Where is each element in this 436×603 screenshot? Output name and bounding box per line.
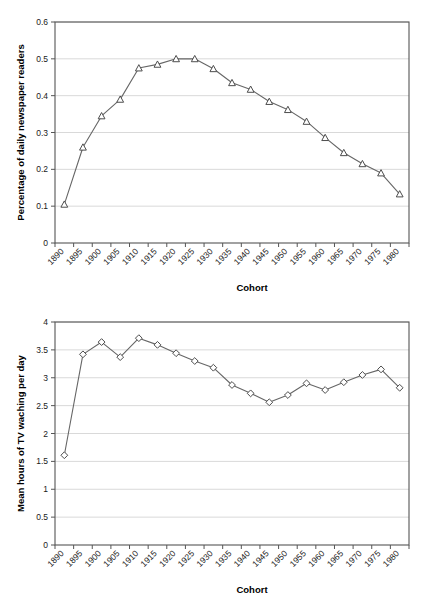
tv-hours-chart: 00.511.522.533.5418901895190019051910191… [0, 300, 436, 603]
y-tick-label-1: 0.1 [36, 201, 48, 211]
x-tick-label-1940: 1940 [232, 548, 253, 569]
data-point-marker [303, 118, 310, 124]
x-tick-label-1920: 1920 [157, 548, 178, 569]
x-axis-group: 1890189519001905191019151920192519301935… [45, 243, 409, 267]
y-tick-label-0: 0 [43, 540, 48, 550]
data-point-marker [284, 392, 291, 399]
y-tick-label-0: 0 [43, 238, 48, 248]
x-tick-label-1970: 1970 [343, 246, 364, 267]
y-axis-group: 00.10.20.30.40.50.6 [36, 17, 55, 248]
x-tick-label-1910: 1910 [120, 548, 141, 569]
x-tick-label-1920: 1920 [157, 246, 178, 267]
figure-page: 00.10.20.30.40.50.6189018951900190519101… [0, 0, 436, 603]
x-tick-label-1935: 1935 [213, 246, 234, 267]
x-tick-label-1950: 1950 [269, 548, 290, 569]
y-tick-label-3: 0.3 [36, 128, 48, 138]
x-tick-label-1905: 1905 [101, 246, 122, 267]
x-tick-label-1945: 1945 [250, 246, 271, 267]
y-tick-label-4: 2 [43, 429, 48, 439]
x-tick-label-1895: 1895 [64, 246, 85, 267]
y-tick-label-2: 0.2 [36, 164, 48, 174]
x-tick-label-1945: 1945 [250, 548, 271, 569]
data-point-marker [80, 351, 87, 358]
y-tick-label-5: 0.5 [36, 54, 48, 64]
data-point-marker [266, 399, 273, 406]
x-axis-title: Cohort [236, 282, 268, 293]
x-tick-label-1970: 1970 [343, 548, 364, 569]
data-point-marker [359, 160, 366, 166]
data-point-marker [284, 106, 291, 112]
data-point-marker [322, 387, 329, 394]
x-tick-label-1915: 1915 [138, 548, 159, 569]
data-point-marker [378, 170, 385, 176]
markers-group [61, 335, 403, 459]
data-point-marker [210, 65, 217, 71]
x-tick-label-1965: 1965 [325, 548, 346, 569]
data-point-marker [191, 358, 198, 365]
data-point-marker [303, 380, 310, 387]
y-axis-title: Percentage of daily newspaper readers [15, 44, 26, 220]
x-tick-label-1980: 1980 [381, 548, 402, 569]
data-point-marker [61, 452, 68, 459]
x-tick-label-1940: 1940 [232, 246, 253, 267]
y-tick-label-7: 3.5 [36, 345, 48, 355]
y-tick-label-4: 0.4 [36, 91, 48, 101]
x-tick-label-1905: 1905 [101, 548, 122, 569]
y-tick-label-8: 4 [43, 317, 48, 327]
x-tick-label-1935: 1935 [213, 548, 234, 569]
x-tick-label-1900: 1900 [83, 548, 104, 569]
x-tick-label-1890: 1890 [45, 246, 66, 267]
data-point-marker [80, 144, 87, 150]
y-axis-group: 00.511.522.533.54 [36, 317, 55, 550]
data-point-marker [61, 201, 68, 207]
data-point-marker [340, 379, 347, 386]
x-tick-label-1910: 1910 [120, 246, 141, 267]
y-tick-label-5: 2.5 [36, 401, 48, 411]
x-tick-label-1900: 1900 [83, 246, 104, 267]
y-tick-label-2: 1 [43, 484, 48, 494]
x-tick-label-1930: 1930 [194, 548, 215, 569]
x-axis-title: Cohort [236, 584, 268, 595]
x-tick-label-1925: 1925 [176, 246, 197, 267]
data-point-marker [173, 350, 180, 357]
y-tick-label-6: 0.6 [36, 17, 48, 27]
x-tick-label-1965: 1965 [325, 246, 346, 267]
x-tick-label-1895: 1895 [64, 548, 85, 569]
data-point-marker [266, 98, 273, 104]
newspaper-readers-chart: 00.10.20.30.40.50.6189018951900190519101… [0, 0, 436, 300]
series-line [64, 338, 399, 455]
chart-panel-tv-hours: 00.511.522.533.5418901895190019051910191… [0, 300, 436, 603]
y-tick-label-1: 0.5 [36, 512, 48, 522]
x-tick-label-1890: 1890 [45, 548, 66, 569]
data-point-marker [247, 390, 254, 397]
data-point-marker [154, 341, 161, 348]
x-tick-label-1955: 1955 [287, 246, 308, 267]
x-tick-label-1975: 1975 [362, 246, 383, 267]
x-tick-label-1950: 1950 [269, 246, 290, 267]
gridlines-group [55, 322, 409, 517]
markers-group [61, 55, 403, 207]
x-tick-label-1975: 1975 [362, 548, 383, 569]
data-point-marker [117, 96, 124, 102]
y-tick-label-3: 1.5 [36, 456, 48, 466]
x-tick-label-1960: 1960 [306, 246, 327, 267]
x-tick-label-1930: 1930 [194, 246, 215, 267]
data-point-marker [247, 86, 254, 92]
x-tick-label-1925: 1925 [176, 548, 197, 569]
x-axis-group: 1890189519001905191019151920192519301935… [45, 545, 409, 569]
y-tick-label-6: 3 [43, 373, 48, 383]
chart-panel-newspaper-readers: 00.10.20.30.40.50.6189018951900190519101… [0, 0, 436, 300]
y-axis-title: Mean hours of TV waching per day [15, 354, 26, 511]
x-tick-label-1960: 1960 [306, 548, 327, 569]
x-tick-label-1980: 1980 [381, 246, 402, 267]
x-tick-label-1915: 1915 [138, 246, 159, 267]
gridlines-group [55, 22, 409, 206]
x-tick-label-1955: 1955 [287, 548, 308, 569]
